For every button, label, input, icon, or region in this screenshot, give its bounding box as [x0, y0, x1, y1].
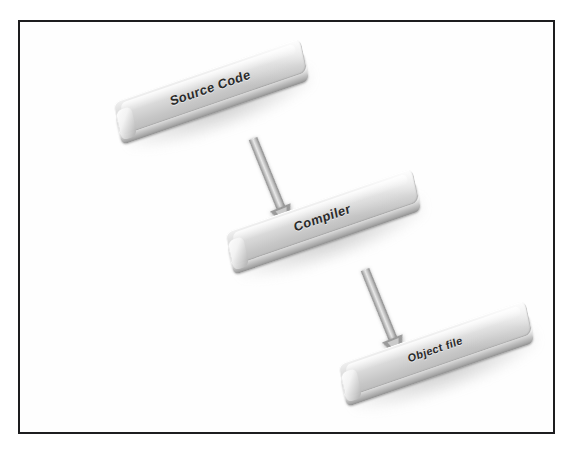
node-compiler[interactable]: Compiler: [225, 168, 423, 284]
diagram-frame-inner: Source Code Compiler: [20, 22, 553, 432]
node-source-code[interactable]: Source Code: [113, 38, 311, 154]
diagram-canvas: Source Code Compiler: [0, 0, 570, 451]
arrow-shaft: [361, 268, 399, 346]
diagram-frame: Source Code Compiler: [18, 20, 555, 434]
diagram-scene: Source Code Compiler: [20, 22, 553, 432]
node-object-file[interactable]: Object file: [338, 300, 536, 416]
arrow-shaft: [249, 137, 287, 215]
